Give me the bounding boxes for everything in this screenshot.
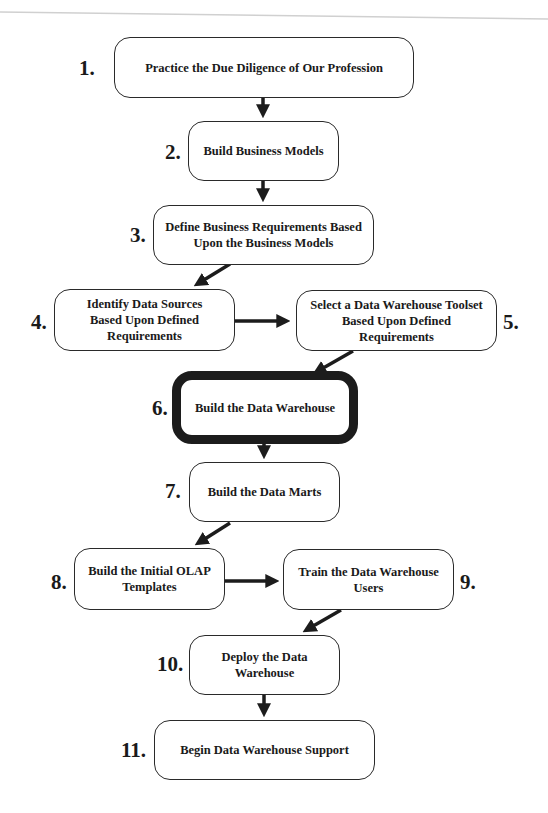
arrow-5-to-6 [318,351,353,371]
step-label-8: Build the Initial OLAP Templates [88,563,211,595]
step-number-9: 9. [460,571,476,593]
step-number-3: 3. [130,224,146,246]
step-box-8: Build the Initial OLAP Templates [74,548,225,610]
step-label-10: Deploy the Data Warehouse [221,649,307,681]
step-number-1: 1. [79,57,95,79]
step-box-3: Define Business Requirements Based Upon … [153,205,374,265]
step-number-4: 4. [31,311,47,333]
step-box-11: Begin Data Warehouse Support [154,720,375,780]
top-border-line [0,0,548,30]
step-box-6-highlighted: Build the Data Warehouse [172,371,358,444]
step-number-5: 5. [503,311,519,333]
step-number-6: 6. [152,397,168,419]
step-box-4: Identify Data Sources Based Upon Defined… [54,289,235,351]
step-label-4: Identify Data Sources Based Upon Defined… [87,296,203,344]
step-label-1: Practice the Due Diligence of Our Profes… [145,60,383,76]
step-box-1: Practice the Due Diligence of Our Profes… [114,37,414,98]
step-number-2: 2. [165,141,181,163]
arrow-9-to-10 [308,610,341,629]
step-label-11: Begin Data Warehouse Support [180,742,349,758]
step-box-2: Build Business Models [188,121,339,181]
step-number-8: 8. [51,571,67,593]
step-number-10: 10. [157,653,183,675]
arrow-3-to-4 [199,264,230,283]
step-number-7: 7. [165,480,181,502]
step-box-5: Select a Data Warehouse Toolset Based Up… [296,290,497,351]
arrow-7-to-8 [200,523,230,542]
step-label-2: Build Business Models [203,143,323,159]
step-box-9: Train the Data Warehouse Users [283,549,454,610]
step-box-10: Deploy the Data Warehouse [189,635,340,695]
step-box-7: Build the Data Marts [189,462,340,522]
step-label-6: Build the Data Warehouse [195,400,335,416]
step-label-3: Define Business Requirements Based Upon … [165,219,362,251]
step-number-11: 11. [121,739,146,761]
step-label-7: Build the Data Marts [208,484,322,500]
step-label-5: Select a Data Warehouse Toolset Based Up… [310,297,482,345]
step-label-9: Train the Data Warehouse Users [298,564,439,596]
